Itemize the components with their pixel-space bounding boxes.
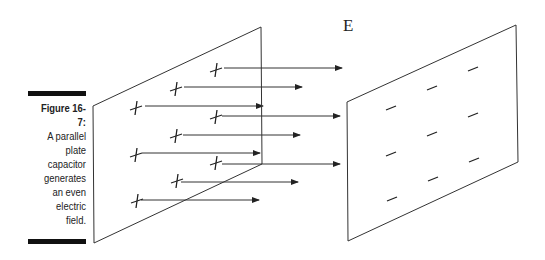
negative-charges	[386, 67, 479, 201]
field-lines	[141, 68, 342, 200]
capacitor-diagram	[0, 0, 545, 260]
negative-plate	[347, 25, 518, 241]
